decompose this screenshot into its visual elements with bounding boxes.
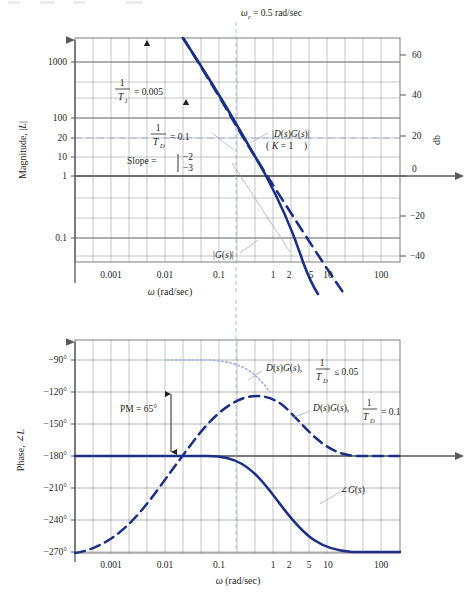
phase-ytick-neg120: −120°: [44, 387, 68, 397]
svg-text:T: T: [316, 372, 322, 382]
magnitude-ytick-1000: 1000: [48, 57, 67, 67]
magnitude-ytick-100: 100: [53, 113, 68, 123]
magnitude-xtick-1: 1: [271, 270, 276, 280]
phase-ytick-neg90: −90°: [48, 355, 67, 365]
svg-text:|D(s)G(s)|: |D(s)G(s)|: [272, 129, 310, 140]
db-tick-neg40: −40: [410, 251, 425, 261]
svg-text:T: T: [363, 412, 369, 422]
omega-c-label: ω: [241, 8, 248, 18]
db-tick-20: 20: [412, 131, 422, 141]
svg-text:Slope =: Slope =: [127, 156, 156, 166]
magnitude-xtick-0p1: 0.1: [213, 270, 225, 280]
svg-text:K = 1: K = 1: [271, 141, 293, 151]
svg-text:D: D: [369, 417, 375, 424]
svg-text:D: D: [322, 377, 328, 384]
magnitude-xtick-2: 2: [287, 270, 292, 280]
annotation-DG-magnitude: |D(s)G(s)| K = 1 ( ): [266, 129, 310, 152]
magnitude-xtick-0p01: 0.01: [157, 270, 174, 280]
magnitude-y-axis-title: Magnitude, |L|: [17, 121, 28, 179]
omega-c-subscript: c: [248, 13, 251, 20]
magnitude-xtick-5: 5: [309, 270, 314, 280]
svg-text:= 0.005: = 0.005: [134, 87, 163, 97]
magnitude-ytick-1: 1: [62, 171, 67, 181]
svg-text:= 0.1: = 0.1: [170, 132, 190, 142]
db-tick-neg20: −20: [410, 211, 425, 221]
phase-ytick-neg270: −270°: [44, 547, 68, 557]
db-tick-60: 60: [412, 50, 422, 60]
db-axis-title: db: [431, 135, 442, 145]
svg-text:−3: −3: [183, 163, 193, 173]
phase-xtick-1: 1: [271, 560, 276, 570]
svg-text:≤ 0.05: ≤ 0.05: [334, 367, 358, 377]
phase-xtick-2: 2: [287, 560, 292, 570]
svg-text:|G(s)|: |G(s)|: [213, 250, 234, 261]
magnitude-ytick-0p1: 0.1: [55, 233, 67, 243]
svg-text:1: 1: [120, 78, 125, 88]
phase-ytick-neg240: −240°: [44, 515, 68, 525]
phase-ytick-neg210: −210°: [44, 483, 68, 493]
phase-xtick-5: 5: [307, 560, 312, 570]
phase-y-axis-title: Phase, ∠L: [15, 428, 26, 471]
annotation-angle-G: ∠G(s): [340, 485, 365, 496]
magnitude-xtick-0p001: 0.001: [100, 270, 122, 280]
phase-ytick-neg180: −180°: [44, 451, 68, 461]
magnitude-ytick-10: 10: [58, 152, 68, 162]
svg-text:−2: −2: [183, 152, 193, 162]
bode-figure: ω c = 0.5 rad/sec 1000 100 20 10 1 0.1 6…: [0, 0, 466, 594]
svg-text:(: (: [266, 141, 269, 152]
phase-xtick-0p001: 0.001: [100, 560, 122, 570]
db-tick-0: 0: [412, 164, 417, 174]
svg-text:= 0.1: = 0.1: [381, 407, 401, 417]
phase-xtick-10: 10: [323, 560, 333, 570]
annotation-G-magnitude: |G(s)|: [213, 250, 234, 261]
svg-text:D(s)G(s),: D(s)G(s),: [265, 363, 302, 374]
svg-text:1: 1: [156, 123, 161, 133]
phase-xtick-0p1: 0.1: [213, 560, 225, 570]
phase-ytick-neg150: −150°: [44, 419, 68, 429]
phase-xtick-0p01: 0.01: [157, 560, 174, 570]
magnitude-xtick-10: 10: [323, 270, 333, 280]
svg-text:T: T: [153, 137, 159, 147]
svg-text:T: T: [118, 92, 124, 102]
phase-xtick-100: 100: [374, 560, 389, 570]
svg-text:D: D: [159, 142, 165, 149]
svg-text:D(s)G(s),: D(s)G(s),: [312, 403, 349, 414]
figure-root: ω c = 0.5 rad/sec 1000 100 20 10 1 0.1 6…: [0, 0, 466, 594]
svg-text:): ): [304, 141, 307, 152]
svg-text:1: 1: [367, 398, 372, 408]
omega-c-value: = 0.5 rad/sec: [253, 8, 302, 18]
phase-x-axis-title: ω (rad/sec): [216, 575, 261, 587]
annotation-phase-margin: PM = 65°: [120, 404, 157, 414]
magnitude-xtick-100: 100: [374, 270, 389, 280]
svg-text:1: 1: [320, 358, 325, 368]
magnitude-x-axis-title: ω (rad/sec): [148, 286, 193, 298]
db-tick-40: 40: [412, 90, 422, 100]
magnitude-ytick-20: 20: [58, 133, 68, 143]
